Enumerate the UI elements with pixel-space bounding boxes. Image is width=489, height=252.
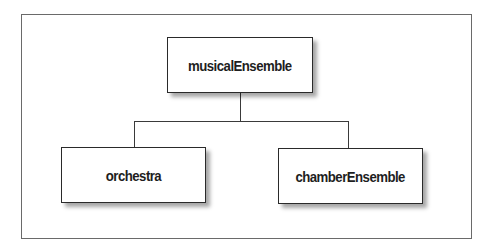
node-musical-ensemble: musicalEnsemble [167,37,313,93]
connector-chamber-drop [348,121,349,149]
node-label: orchestra [106,167,161,184]
node-orchestra: orchestra [61,147,206,203]
connector-orchestra-drop [134,121,135,148]
node-chamber-ensemble: chamberEnsemble [278,148,423,204]
node-label: chamberEnsemble [296,168,405,185]
node-label: musicalEnsemble [188,57,292,74]
connector-root-stem [240,93,241,121]
connector-horizontal-bar [134,121,349,122]
